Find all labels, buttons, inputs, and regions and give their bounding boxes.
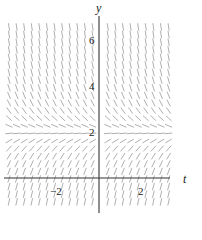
slope-segment — [153, 191, 155, 198]
slope-segment — [153, 31, 154, 38]
slope-segment — [24, 54, 25, 61]
slope-segment — [138, 24, 139, 31]
slope-segment — [113, 116, 118, 121]
slope-segment — [39, 69, 41, 76]
slope-segment — [83, 100, 86, 106]
slope-segment — [160, 168, 162, 174]
slope-segment — [67, 116, 72, 121]
slope-segment — [92, 183, 94, 190]
slope-segment — [92, 24, 93, 31]
slope-segment — [8, 183, 10, 190]
slope-segment — [105, 116, 110, 121]
slope-segment — [166, 139, 172, 143]
slope-segment — [160, 191, 162, 198]
slope-segment — [115, 46, 116, 53]
slope-segment — [28, 133, 35, 134]
slope-segment — [106, 153, 110, 159]
slope-segment — [153, 54, 154, 61]
slope-segment — [168, 39, 169, 46]
slope-segment — [85, 24, 86, 31]
slope-segment — [22, 116, 27, 121]
slope-segment — [46, 183, 48, 190]
slope-segment — [14, 139, 20, 143]
slope-segment — [160, 198, 161, 205]
slope-segment — [23, 62, 24, 69]
slope-segment — [168, 198, 169, 205]
slope-segment — [52, 146, 57, 151]
slope-segment — [122, 31, 123, 38]
slope-segment — [145, 92, 148, 98]
slope-segment — [142, 133, 149, 134]
slope-segment — [159, 146, 164, 151]
slope-segment — [145, 62, 146, 69]
slope-segment — [129, 161, 132, 167]
slope-segment — [53, 92, 56, 98]
slope-segment — [69, 69, 71, 76]
slope-segment — [59, 125, 65, 128]
slope-segment — [160, 183, 162, 190]
slope-segment — [168, 69, 170, 76]
slope-segment — [24, 31, 25, 38]
slope-segment — [122, 39, 123, 46]
slope-segment — [31, 198, 32, 205]
slope-segment — [68, 108, 72, 114]
slope-segment — [77, 69, 79, 76]
slope-segment — [23, 176, 25, 182]
slope-segment — [8, 62, 9, 69]
slope-segment — [122, 85, 124, 91]
slope-segment — [160, 176, 162, 182]
slope-segment — [137, 85, 139, 91]
slope-segment — [145, 31, 146, 38]
slope-segment — [153, 62, 154, 69]
slope-segment — [38, 85, 40, 91]
slope-segment — [166, 146, 171, 151]
slope-segment — [24, 39, 25, 46]
slope-segment — [23, 92, 26, 98]
slope-segment — [145, 69, 147, 76]
slope-segment — [152, 176, 154, 182]
slope-segment — [54, 46, 55, 53]
slope-segment — [16, 77, 18, 84]
slope-segment — [77, 183, 79, 190]
slope-segment — [31, 168, 33, 174]
slope-segment — [6, 139, 12, 143]
slope-segment — [114, 92, 117, 98]
slope-segment — [130, 39, 131, 46]
slope-segment — [115, 183, 117, 190]
slope-segment — [113, 108, 117, 114]
slope-segment — [121, 146, 126, 151]
slope-segment — [51, 133, 58, 134]
slope-segment — [121, 108, 125, 114]
slope-segment — [30, 153, 34, 159]
slope-segment — [77, 46, 78, 53]
slope-segment — [115, 31, 116, 38]
slope-segment — [21, 139, 27, 143]
slope-segment — [161, 24, 162, 31]
slope-segment — [15, 153, 19, 159]
slope-segment — [68, 146, 73, 151]
slope-segment — [23, 85, 25, 91]
slope-segment — [115, 54, 116, 61]
slope-segment — [84, 161, 87, 167]
slope-segment — [31, 191, 33, 198]
slope-segment — [46, 161, 49, 167]
slope-segment — [153, 183, 155, 190]
slope-segment — [61, 62, 62, 69]
slope-segment — [46, 168, 48, 174]
slope-segment — [7, 116, 12, 121]
slope-segment — [167, 153, 171, 159]
slope-segment — [122, 176, 124, 182]
slope-segment — [8, 161, 11, 167]
slope-segment — [75, 116, 80, 121]
slope-segment — [135, 125, 141, 128]
slope-segment — [46, 62, 47, 69]
slope-segment — [39, 191, 41, 198]
slope-segment — [74, 133, 81, 134]
slope-segment — [128, 146, 133, 151]
slope-segment — [38, 153, 42, 159]
slope-segment — [39, 24, 40, 31]
slope-segment — [60, 108, 64, 114]
slope-segment — [130, 62, 131, 69]
slope-segment — [137, 198, 138, 205]
slope-segment — [38, 92, 41, 98]
